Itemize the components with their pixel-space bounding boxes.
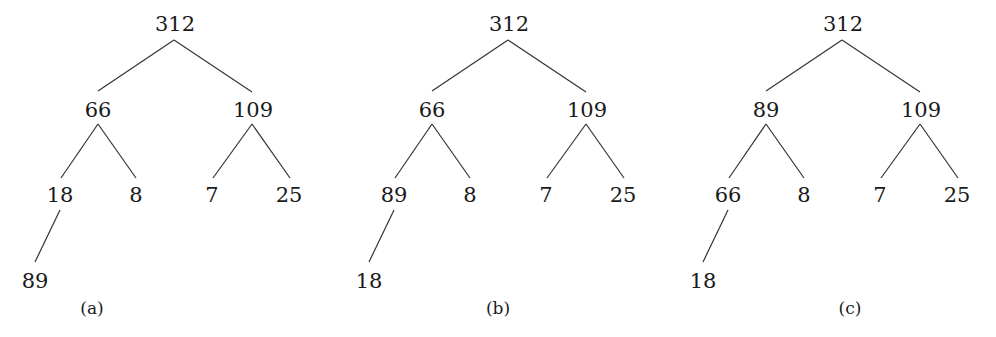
node-left-left: 89 [381, 183, 408, 207]
node-right-right: 25 [610, 183, 637, 207]
node-left-right: 8 [129, 183, 142, 207]
node-left-right: 8 [463, 183, 476, 207]
node-right-right: 25 [944, 183, 971, 207]
tree-label: (b) [486, 298, 510, 318]
node-root: 312 [489, 12, 529, 36]
node-right: 109 [901, 98, 941, 122]
node-right-left: 7 [539, 183, 552, 207]
node-right-left: 7 [873, 183, 886, 207]
node-root: 312 [155, 12, 195, 36]
node-left-left-left: 18 [356, 269, 383, 293]
tree-a: 312 66 109 18 8 7 25 89 (a) [0, 0, 332, 320]
node-left-left-left: 89 [22, 269, 49, 293]
tree-c-edges [668, 0, 996, 320]
node-root: 312 [823, 12, 863, 36]
node-left-right: 8 [797, 183, 810, 207]
node-left: 66 [85, 98, 112, 122]
node-right-left: 7 [205, 183, 218, 207]
node-left: 89 [753, 98, 780, 122]
tree-label: (a) [80, 298, 103, 318]
tree-c: 312 89 109 66 8 7 25 18 (c) [668, 0, 996, 320]
node-right: 109 [233, 98, 273, 122]
tree-a-edges [0, 0, 332, 320]
node-left-left-left: 18 [690, 269, 717, 293]
node-right: 109 [567, 98, 607, 122]
tree-b: 312 66 109 89 8 7 25 18 (b) [334, 0, 666, 320]
node-right-right: 25 [276, 183, 303, 207]
tree-label: (c) [839, 298, 862, 318]
node-left-left: 18 [47, 183, 74, 207]
node-left: 66 [419, 98, 446, 122]
tree-b-edges [334, 0, 666, 320]
node-left-left: 66 [715, 183, 742, 207]
